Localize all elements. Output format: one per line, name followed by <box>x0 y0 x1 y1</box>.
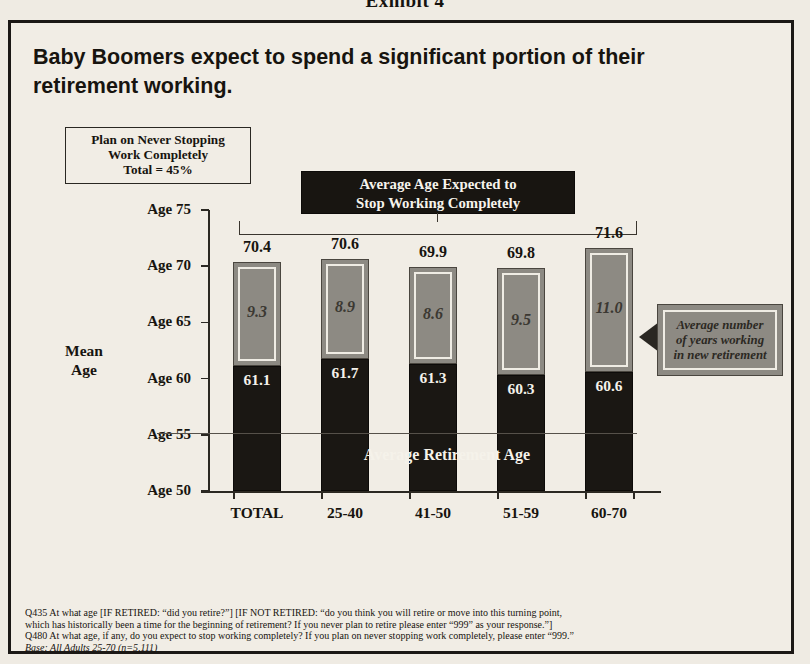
slide-page: Exhibit 4 Baby Boomers expect to spend a… <box>0 0 810 664</box>
x-axis-tick-label: TOTAL <box>207 504 307 522</box>
average-retirement-age-label: Average Retirement Age <box>297 446 597 464</box>
y-axis-tick-label: Age 50 <box>107 482 191 499</box>
x-axis-tick-label: 51-59 <box>471 504 571 522</box>
y-axis-tick-label: Age 70 <box>107 257 191 274</box>
y-axis-tick <box>201 378 209 380</box>
years-working-callout-text: Average number of years working in new r… <box>673 318 766 363</box>
bar-years-working-value-label: 8.6 <box>393 305 473 323</box>
y-axis-tick <box>201 490 209 492</box>
y-axis-title-line-1: Mean <box>47 341 121 360</box>
footnote-block: Q435 At what age [IF RETIRED: “did you r… <box>25 607 785 653</box>
x-axis-tick-label: 41-50 <box>383 504 483 522</box>
footnote-line-3: Q480 At what age, if any, do you expect … <box>25 630 785 642</box>
bar-total-value-label: 71.6 <box>569 224 649 242</box>
y-axis-tick <box>201 265 209 267</box>
x-axis-tick <box>233 491 235 499</box>
x-axis-tick <box>497 491 499 499</box>
exhibit-label: Exhibit 4 <box>0 0 810 11</box>
x-axis-tick <box>633 491 635 499</box>
y-axis-tick <box>201 209 209 211</box>
bar-years-working-value-label: 8.9 <box>305 298 385 316</box>
bar-retirement-age-value-label: 60.3 <box>481 380 561 398</box>
years-working-callout-inner: Average number of years working in new r… <box>663 310 777 370</box>
bar-years-working-value-label: 9.3 <box>217 303 297 321</box>
y-axis-tick-label: Age 60 <box>107 370 191 387</box>
average-retirement-age-leader-line <box>157 433 637 434</box>
x-axis-tick-label: 60-70 <box>559 504 659 522</box>
bar-total-value-label: 69.9 <box>393 243 473 261</box>
x-axis-tick <box>585 491 587 499</box>
callout-line-3: in new retirement <box>673 348 766 363</box>
bar-retirement-age-value-label: 61.1 <box>217 371 297 389</box>
y-axis-line <box>208 210 210 492</box>
footnote-base: Base: All Adults 25-70 (n=5,111) <box>25 642 785 654</box>
chart-plot-area: Mean Age Age 50Age 55Age 60Age 65Age 70A… <box>11 23 797 657</box>
bar-retirement-age-value-label: 61.7 <box>305 364 385 382</box>
x-axis-line <box>201 491 661 493</box>
bar-total-value-label: 69.8 <box>481 244 561 262</box>
y-axis-tick <box>201 322 209 324</box>
x-axis-tick <box>321 491 323 499</box>
bar-retirement-age-value-label: 60.6 <box>569 377 649 395</box>
bar-total-value-label: 70.6 <box>305 235 385 253</box>
slide-frame: Baby Boomers expect to spend a significa… <box>8 20 794 654</box>
bar-years-working-value-label: 11.0 <box>569 299 649 317</box>
callout-line-1: Average number <box>673 318 766 333</box>
years-working-callout: Average number of years working in new r… <box>657 304 783 376</box>
bar-total-value-label: 70.4 <box>217 238 297 256</box>
x-axis-tick-label: 25-40 <box>295 504 395 522</box>
bar-years-working-value-label: 9.5 <box>481 311 561 329</box>
x-axis-tick <box>409 491 411 499</box>
y-axis-tick-label: Age 65 <box>107 313 191 330</box>
footnote-line-1: Q435 At what age [IF RETIRED: “did you r… <box>25 607 785 619</box>
callout-arrow-icon <box>639 322 659 352</box>
y-axis-tick-label: Age 75 <box>107 201 191 218</box>
footnote-line-2: which has historically been a time for t… <box>25 619 785 631</box>
bar-retirement-age-value-label: 61.3 <box>393 369 473 387</box>
callout-line-2: of years working <box>673 333 766 348</box>
